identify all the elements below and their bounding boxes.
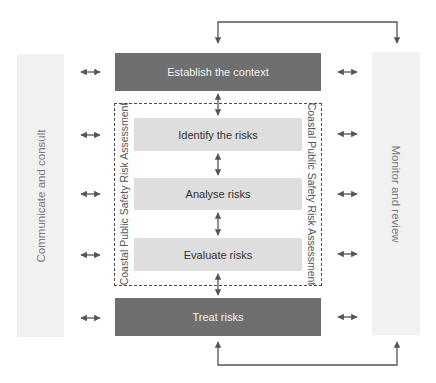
connectors-layer bbox=[0, 0, 436, 383]
bottom-feedback-loop-arrow bbox=[218, 342, 397, 365]
top-feedback-loop-arrow bbox=[218, 22, 397, 43]
